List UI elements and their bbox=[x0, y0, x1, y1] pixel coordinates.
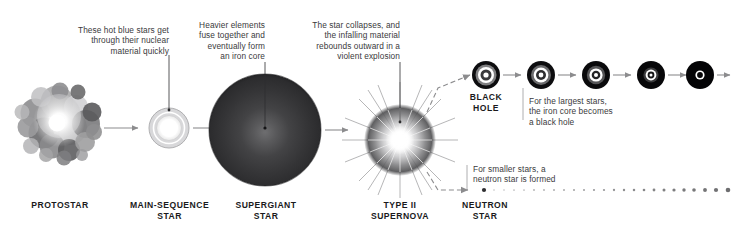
black-hole-stage-4 bbox=[637, 61, 665, 89]
black-hole-stage-1 bbox=[472, 61, 500, 89]
black-hole-stage-3 bbox=[582, 61, 610, 89]
main-sequence-star-body bbox=[149, 108, 189, 148]
black-hole-stage-2 bbox=[527, 61, 555, 89]
stage-label-black-hole: BLACK HOLE bbox=[451, 92, 521, 113]
neutron-star-body bbox=[482, 188, 486, 192]
stage-label-protostar: PROTOSTAR bbox=[14, 200, 106, 211]
annotation-black-hole: For the largest stars, the iron core bec… bbox=[529, 96, 659, 127]
stage-label-type-ii-supernova: TYPE II SUPERNOVA bbox=[355, 200, 445, 221]
leader-dot-supergiant-note bbox=[263, 126, 266, 129]
stellar-evolution-diagram: These hot blue stars get through their n… bbox=[0, 0, 735, 231]
arrow-supernova-to-neutron-star bbox=[427, 172, 468, 190]
black-hole-stage-5 bbox=[686, 61, 714, 89]
annotation-protostar: These hot blue stars get through their n… bbox=[36, 25, 169, 56]
protostar-body bbox=[15, 83, 103, 166]
annotation-supergiant: Heavier elements fuse together and event… bbox=[155, 20, 265, 62]
leader-dot-protostar-note bbox=[168, 109, 171, 112]
neutron-star-dotted-trail bbox=[493, 188, 730, 193]
leader-dot-supernova-note bbox=[399, 121, 402, 124]
stage-label-main-sequence-star: MAIN-SEQUENCE STAR bbox=[113, 200, 226, 221]
annotation-supernova: The star collapses, and the infalling ma… bbox=[288, 20, 400, 62]
annotation-neutron-star: For smaller stars, a neutron star is for… bbox=[473, 164, 603, 185]
stage-label-neutron-star: NEUTRON STAR bbox=[450, 200, 520, 221]
stage-label-supergiant-star: SUPERGIANT STAR bbox=[222, 200, 310, 221]
